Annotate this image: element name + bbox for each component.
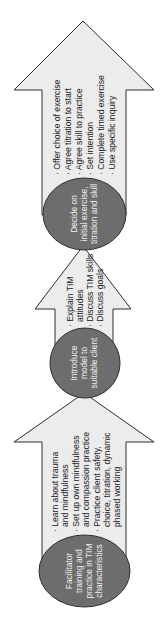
svg-text:suitable client: suitable client xyxy=(89,337,99,388)
bullet-item-cont: and compassion practice xyxy=(81,432,91,527)
bullet-item: · Offer choice of exercise xyxy=(52,79,62,175)
process-diagram: Decide on initial exercise, titration an… xyxy=(0,0,166,638)
svg-text:model to: model to xyxy=(79,347,89,379)
svg-text:training and: training and xyxy=(74,549,84,593)
bullet-item: · Set intention xyxy=(85,122,95,175)
bullet-item: · Discuss goals xyxy=(95,269,105,327)
bullet-item: · Agree skill to practice xyxy=(74,88,84,175)
bullet-item: · Practice client safety, xyxy=(92,446,102,532)
bullet-item: · Set up own mindfulness xyxy=(71,436,81,533)
svg-text:practice in TIM: practice in TIM xyxy=(84,544,94,599)
bullet-item: · Discuss TIM skills xyxy=(85,254,95,327)
bullet-item-cont: and mindfulness xyxy=(60,464,70,527)
bullet-item-cont: attitudes xyxy=(75,290,85,323)
bullet-item: · Use specific inquiry xyxy=(107,95,117,175)
svg-text:Decide on: Decide on xyxy=(69,195,79,233)
svg-text:initial exercise,: initial exercise, xyxy=(79,187,89,242)
bullet-item-cont: phased working xyxy=(112,467,122,527)
bullet-item: · Explain TIM xyxy=(65,277,75,327)
svg-text:titration and skill: titration and skill xyxy=(89,184,99,244)
bullet-item: · Agree titration to start xyxy=(63,87,73,175)
bullet-item: · Learn about trauma xyxy=(50,452,60,532)
bullet-item-cont: choice, titration, dynamic xyxy=(102,432,112,527)
bullet-item: · Complete timed exercise xyxy=(96,75,106,175)
svg-text:Facilitator: Facilitator xyxy=(64,553,74,590)
svg-text:Introduce: Introduce xyxy=(69,345,79,380)
svg-text:characteristics: characteristics xyxy=(94,544,104,598)
